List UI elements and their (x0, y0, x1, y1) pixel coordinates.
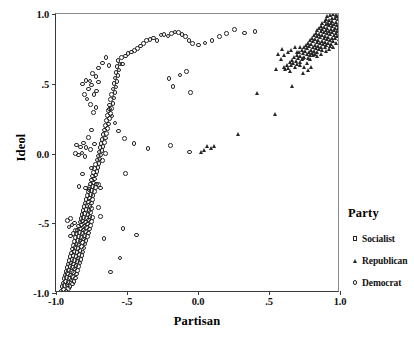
data-point-republican (301, 56, 305, 60)
data-point-republican (319, 52, 323, 56)
data-point-democrat (118, 256, 123, 261)
x-tick-label: -.5 (122, 296, 133, 307)
data-point-democrat (132, 141, 137, 146)
x-tick (269, 291, 270, 295)
data-point-democrat (108, 270, 113, 275)
x-tick (340, 291, 341, 295)
plot-area: -1.0-.50.0.51.0 -1.0-.50.0.51.0 (55, 13, 339, 292)
data-point-democrat (85, 97, 90, 102)
legend-item-socialist[interactable]: Socialist (348, 230, 414, 247)
legend-item-republican[interactable]: Republican (348, 252, 414, 269)
data-point-democrat (210, 38, 215, 43)
y-tick (52, 154, 56, 155)
data-point-democrat (121, 226, 126, 231)
data-point-republican (286, 50, 290, 54)
data-point-democrat (253, 29, 258, 34)
data-point-democrat (82, 92, 87, 97)
data-point-democrat (242, 31, 247, 36)
data-point-republican (301, 71, 305, 75)
data-point-democrat (89, 219, 94, 224)
data-point-democrat (103, 151, 108, 156)
data-point-democrat (168, 143, 173, 148)
data-point-republican (334, 41, 338, 45)
data-point-republican (274, 67, 278, 71)
data-point-democrat (102, 236, 107, 241)
data-point-democrat (96, 205, 101, 210)
y-tick-label: 0.0 (36, 148, 49, 159)
data-point-democrat (91, 110, 96, 115)
legend-item-label: Democrat (362, 278, 401, 288)
data-point-democrat (96, 182, 101, 187)
data-point-democrat (188, 90, 193, 95)
data-point-democrat (87, 187, 92, 192)
x-tick (56, 291, 57, 295)
data-point-democrat (232, 27, 237, 32)
circle-marker-icon (348, 280, 362, 285)
data-point-republican (199, 150, 203, 154)
y-tick-label: -1.0 (33, 288, 49, 299)
data-point-republican (236, 132, 240, 136)
data-point-democrat (113, 121, 118, 126)
x-tick-label: -1.0 (48, 296, 64, 307)
data-point-democrat (120, 62, 125, 67)
y-axis-title: Ideol (14, 118, 29, 178)
data-point-democrat (90, 215, 95, 220)
legend-title: Party (348, 206, 414, 221)
y-tick-label: -.5 (38, 218, 49, 229)
data-point-democrat (94, 105, 99, 110)
data-point-democrat (82, 246, 87, 251)
x-tick (198, 291, 199, 295)
data-point-democrat (73, 228, 78, 233)
data-point-democrat (107, 63, 112, 68)
data-point-democrat (80, 172, 85, 177)
data-point-democrat (78, 145, 83, 150)
legend: Party SocialistRepublicanDemocrat (348, 206, 414, 296)
legend-item-democrat[interactable]: Democrat (348, 274, 414, 291)
scatter-plot-figure: Ideol -1.0-.50.0.51.0 -1.0-.50.0.51.0 Pa… (0, 0, 414, 337)
data-point-democrat (96, 80, 101, 85)
data-point-democrat (98, 214, 103, 219)
data-point-democrat (167, 76, 172, 81)
data-point-democrat (100, 61, 105, 66)
x-tick-label: .5 (265, 296, 272, 307)
data-point-democrat (83, 154, 88, 159)
data-point-democrat (224, 31, 229, 36)
data-point-republican (255, 91, 259, 95)
y-tick (52, 84, 56, 85)
data-point-republican (293, 65, 297, 69)
data-point-democrat (122, 136, 127, 141)
data-point-democrat (89, 83, 94, 88)
data-point-democrat (100, 158, 105, 163)
legend-items: SocialistRepublicanDemocrat (348, 230, 414, 291)
data-point-republican (276, 52, 280, 56)
y-tick-label: 1.0 (36, 9, 49, 20)
data-point-democrat (217, 34, 222, 39)
y-tick (52, 293, 56, 294)
data-point-democrat (68, 216, 73, 221)
data-point-democrat (104, 55, 109, 60)
data-point-democrat (80, 253, 85, 258)
data-point-democrat (146, 146, 151, 151)
data-point-democrat (184, 69, 189, 74)
x-tick-label: 1.0 (334, 296, 347, 307)
data-point-republican (290, 84, 294, 88)
x-tick (127, 291, 128, 295)
data-point-republican (279, 57, 283, 61)
data-point-republican (315, 54, 319, 58)
data-point-democrat (116, 129, 121, 134)
data-point-democrat (90, 71, 95, 76)
data-point-democrat (91, 193, 96, 198)
data-point-republican (293, 45, 297, 49)
data-point-democrat (171, 84, 176, 89)
x-tick-label: 0.0 (192, 296, 205, 307)
data-point-democrat (86, 231, 91, 236)
data-point-republican (331, 45, 335, 49)
data-point-republican (308, 57, 312, 61)
triangle-marker-icon (348, 259, 362, 263)
data-point-democrat (187, 150, 192, 155)
data-point-democrat (76, 264, 81, 269)
data-point-democrat (89, 128, 94, 133)
data-point-republican (295, 50, 299, 54)
data-point-democrat (196, 43, 201, 48)
data-point-democrat (88, 147, 93, 152)
